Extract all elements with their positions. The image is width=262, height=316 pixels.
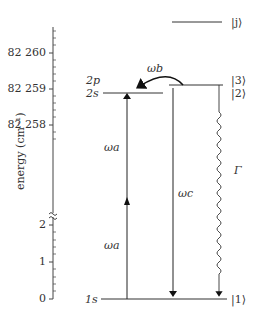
label-omega-b: ωb bbox=[147, 63, 163, 74]
label-gamma: Γ bbox=[234, 165, 242, 176]
label-omega-c: ωc bbox=[178, 188, 193, 199]
label-ket-3: |3⟩ bbox=[231, 75, 246, 86]
tick-2: 2 bbox=[2, 219, 46, 230]
tick-82259: 82 259 bbox=[2, 83, 46, 94]
tick-0: 0 bbox=[2, 293, 46, 304]
axis-label-energy: energy (cm⁻¹) bbox=[14, 112, 27, 190]
label-1s: 1s bbox=[85, 294, 98, 305]
label-omega-a-upper: ωa bbox=[104, 142, 120, 153]
label-ket-1: |1⟩ bbox=[231, 294, 246, 305]
label-ket-j: |j⟩ bbox=[231, 17, 242, 28]
tick-1: 1 bbox=[2, 256, 46, 267]
energy-axis bbox=[49, 27, 57, 299]
label-omega-a-lower: ωa bbox=[104, 240, 120, 251]
label-2s: 2s bbox=[86, 88, 99, 99]
omega-a-mid-arrowhead bbox=[124, 197, 130, 205]
gamma-decay-wavy-arrow bbox=[217, 85, 221, 294]
label-2p: 2p bbox=[86, 75, 100, 86]
label-ket-2: |2⟩ bbox=[231, 88, 246, 99]
tick-82260: 82 260 bbox=[2, 47, 46, 58]
